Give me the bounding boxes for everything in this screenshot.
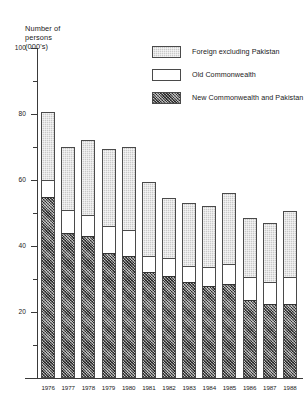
x-tick-label: 1986 [239,384,261,391]
x-tick-label: 1983 [178,384,200,391]
bar-segment [102,253,116,378]
bar-column [222,193,236,378]
bar-segment [102,226,116,252]
bar-column [202,206,216,378]
legend-label-foreign: Foreign excluding Pakistan [192,47,280,56]
y-tick-major [31,378,38,379]
x-tick-label: 1976 [37,384,59,391]
y-tick-label: 100 [0,44,26,51]
y-axis-title-line-2: persons [25,33,52,42]
x-tick-label: 1980 [118,384,140,391]
bar-segment [243,300,257,378]
bar-column [81,140,95,378]
bar-column [182,203,196,378]
x-tick-label: 1984 [198,384,220,391]
bar-segment [102,149,116,227]
legend-swatch-new-commonwealth-icon [152,92,181,104]
bar-column [142,182,156,378]
bar-segment [122,256,136,378]
bar-segment [243,218,257,277]
bar-segment [263,282,277,303]
bar-segment [61,210,75,233]
bar-segment [222,193,236,264]
y-tick-label: 60 [0,176,26,183]
bar-segment [182,203,196,266]
bar-column [102,149,116,378]
x-tick-label: 1988 [279,384,301,391]
bar-segment [263,223,277,282]
bar-segment [202,206,216,267]
x-tick-label: 1981 [138,384,160,391]
bar-segment [162,276,176,378]
bar-column [61,147,75,378]
bar-segment [61,147,75,210]
bar-segment [243,277,257,300]
bar-segment [202,267,216,285]
y-tick-label: 80 [0,110,26,117]
x-axis-line [25,378,303,379]
legend-item-old-commonwealth: Old Commonwealth [152,67,302,82]
bar-segment [81,236,95,378]
legend-item-new-commonwealth: New Commonwealth and Pakistan [152,90,302,105]
bar-segment [182,266,196,283]
bar-segment [222,264,236,284]
x-tick-label: 1987 [259,384,281,391]
bar-segment [81,140,95,214]
x-tick-label: 1982 [158,384,180,391]
bar-segment [182,282,196,378]
bar-column [263,223,277,378]
legend-label-old-commonwealth: Old Commonwealth [192,70,256,79]
immigration-stacked-bar-chart: Number ofpersons(000's) 20406080100 1976… [0,0,307,418]
x-tick-label: 1977 [57,384,79,391]
y-axis-title-line-1: Number of [25,24,60,33]
legend-item-foreign: Foreign excluding Pakistan [152,44,302,59]
bar-segment [263,304,277,378]
bar-segment [283,211,297,277]
bar-segment [162,258,176,276]
bar-segment [222,284,236,378]
y-tick-major [31,246,38,247]
y-tick-major [31,180,38,181]
bar-column [283,211,297,378]
bar-segment [202,286,216,378]
y-tick-major [31,312,38,313]
bar-column [41,112,55,378]
legend-swatch-old-commonwealth-icon [152,69,181,81]
x-tick-label: 1979 [98,384,120,391]
bar-segment [122,147,136,230]
bar-segment [142,182,156,256]
chart-legend: Foreign excluding Pakistan Old Commonwea… [152,44,302,113]
bar-column [162,198,176,378]
bar-column [122,147,136,378]
y-tick-major [31,48,38,49]
bar-segment [283,277,297,303]
bar-column [243,218,257,378]
x-tick-label: 1985 [218,384,240,391]
legend-label-new-commonwealth: New Commonwealth and Pakistan [192,93,303,102]
bar-segment [283,304,297,378]
bar-segment [41,197,55,379]
y-tick-label: 40 [0,242,26,249]
x-tick-label: 1978 [77,384,99,391]
bar-segment [41,180,55,197]
y-tick-label: 20 [0,308,26,315]
bar-segment [122,230,136,256]
bar-segment [142,272,156,378]
bar-segment [81,215,95,236]
bar-segment [162,198,176,257]
bar-segment [61,233,75,378]
bar-segment [41,112,55,180]
y-tick-major [31,114,38,115]
bar-segment [142,256,156,273]
legend-swatch-foreign-icon [152,46,181,58]
